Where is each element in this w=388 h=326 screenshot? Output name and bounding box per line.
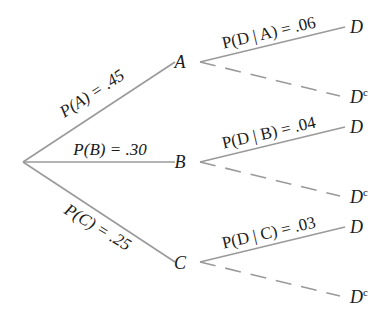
node-a: A — [174, 52, 187, 72]
outcome-d-a: D — [349, 17, 363, 37]
node-b: B — [175, 152, 186, 172]
cond-prob-label-b: P(D | B) = .04 — [220, 113, 318, 153]
cond-prob-label-a: P(D | A) = .06 — [220, 13, 317, 53]
outcome-d-b: D — [349, 117, 363, 137]
outcome-dc-b: D — [349, 187, 363, 207]
prob-label-b: P(B) = .30 — [72, 140, 147, 159]
complement-superscript: c — [363, 186, 368, 198]
outcome-dc-a: D — [349, 87, 363, 107]
branch-dc-given-c — [200, 262, 340, 296]
complement-superscript: c — [363, 286, 368, 298]
outcome-d-c: D — [349, 217, 363, 237]
complement-superscript: c — [363, 86, 368, 98]
prob-label-a: P(A) = .45 — [55, 65, 128, 121]
probability-tree-diagram: P(A) = .45AP(B) = .30BP(C) = .25CP(D | A… — [0, 0, 388, 326]
cond-prob-label-c: P(D | C) = .03 — [220, 213, 317, 253]
branch-dc-given-b — [200, 162, 340, 196]
node-c: C — [174, 253, 187, 273]
branch-c — [23, 162, 175, 262]
branch-dc-given-a — [200, 62, 340, 96]
outcome-dc-c: D — [349, 287, 363, 307]
tree-svg: P(A) = .45AP(B) = .30BP(C) = .25CP(D | A… — [0, 0, 388, 326]
prob-label-c: P(C) = .25 — [60, 199, 134, 254]
